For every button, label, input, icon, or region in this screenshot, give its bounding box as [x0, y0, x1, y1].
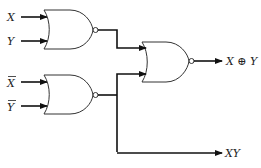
- nor-gate-3: [142, 42, 194, 82]
- input-label-y: Y: [7, 35, 16, 48]
- output-label-xy: XY: [224, 147, 242, 160]
- inversion-bubble-3: [189, 59, 194, 64]
- wire-g2-to-g3: [117, 74, 146, 152]
- inversion-bubble-1: [93, 28, 98, 33]
- wire-g1-to-g3: [98, 30, 146, 48]
- nor-gate-2: [44, 75, 98, 114]
- logic-diagram: X Y X Y X ⊕ Y XY: [0, 0, 261, 168]
- inversion-bubble-2: [93, 93, 98, 98]
- nor-gate-1: [44, 10, 98, 49]
- input-label-ybar: Y: [7, 101, 16, 114]
- input-label-xbar: X: [6, 77, 16, 90]
- input-label-x: X: [6, 11, 16, 24]
- output-label-xor: X ⊕ Y: [225, 55, 259, 68]
